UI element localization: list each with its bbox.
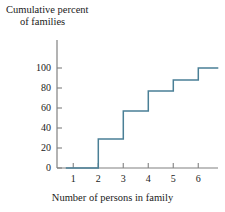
y-tick-label: 80 [21,83,51,93]
x-tick-label: 2 [90,174,106,184]
y-tick-label: 60 [21,103,51,113]
cumulative-step-line [66,68,219,168]
x-tick-label: 6 [190,174,206,184]
axes [57,40,218,168]
x-axis-title: Number of persons in family [0,192,225,204]
y-tick-label: 0 [21,163,51,173]
x-tick-label: 1 [65,174,81,184]
chart-figure: Cumulative percent of families 020406080… [0,0,225,212]
y-tick-marks [57,68,62,168]
x-tick-label: 3 [115,174,131,184]
y-tick-label: 100 [21,63,51,73]
y-tick-label: 20 [21,143,51,153]
x-tick-label: 4 [140,174,156,184]
x-tick-label: 5 [165,174,181,184]
y-tick-label: 40 [21,123,51,133]
